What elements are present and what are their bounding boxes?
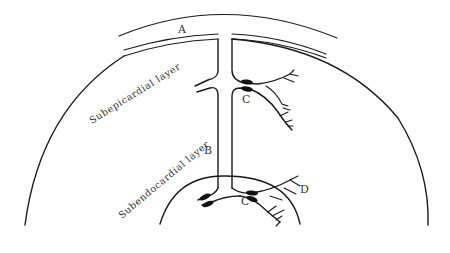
endocardium-inner-circle xyxy=(160,176,300,224)
upper-sphincter-node-top xyxy=(241,79,254,86)
upper-branch-lower-wall xyxy=(250,89,292,130)
lower-branch-D-twigs xyxy=(268,206,284,226)
lower-sphincter-node-left-bottom xyxy=(202,199,215,208)
upper-sphincter-node-bottom xyxy=(241,85,254,92)
label-C-lower: C xyxy=(241,195,249,208)
lower-sphincter-node-left-top xyxy=(199,192,212,202)
subendocardial-layer-label: Subendocardial layer xyxy=(116,138,211,220)
label-A: A xyxy=(177,23,187,36)
penetrating-artery-left-wall xyxy=(195,39,218,86)
epicardial-artery-wall-outer-right xyxy=(232,34,326,54)
upper-branch-fork-1 xyxy=(266,86,290,110)
epicardial-artery-wall-inner-left xyxy=(124,39,218,56)
penetrating-artery-right-wall xyxy=(232,39,290,84)
label-C-upper: C xyxy=(242,93,250,106)
lower-branch-upper-twigs xyxy=(270,176,300,200)
epicardial-artery-wall-outer-left xyxy=(124,34,218,50)
subepicardial-layer-label: Subepicardial layer xyxy=(87,60,182,125)
penetrating-artery-left-wall-lower xyxy=(197,88,218,188)
label-D: D xyxy=(300,183,309,196)
coronary-vessel-diagram: A B C C D Subepicardial layer Subendocar… xyxy=(0,0,450,253)
outer-pericardium-arc xyxy=(119,14,337,38)
